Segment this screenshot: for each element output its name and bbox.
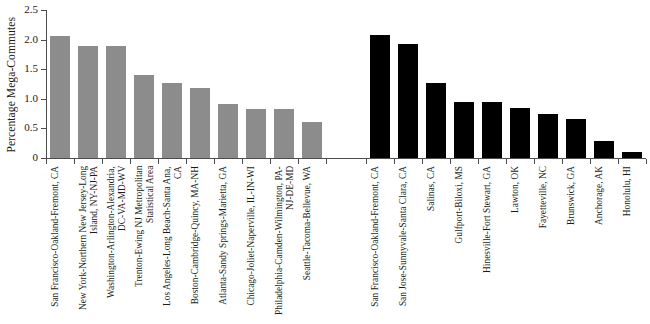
- bar: [50, 36, 70, 158]
- x-axis-label: San Francisco-Oakland-Fremont, CA: [50, 166, 70, 316]
- x-axis-label-text: Philadelphia-Camden-Wilmington, PA-NJ-DE…: [274, 166, 295, 316]
- bar: [426, 83, 446, 158]
- y-tick-label-text: 1.5: [8, 63, 38, 74]
- bar: [482, 102, 502, 158]
- x-axis-label-text: San Francisco-Oakland-Fremont, CA: [50, 166, 61, 307]
- bar: [134, 75, 154, 158]
- x-axis-label: Seattle-Tacoma-Bellevue, WA: [302, 166, 322, 316]
- x-axis-label-text: Lawton, OK: [510, 166, 521, 213]
- x-axis-label-text: Gulfport-Biloxi, MS: [454, 166, 465, 243]
- bar: [78, 46, 98, 158]
- x-tick-mark: [270, 159, 271, 164]
- bar: [190, 88, 210, 158]
- x-tick-mark: [394, 159, 395, 164]
- x-tick-mark: [242, 159, 243, 164]
- x-axis-label: Gulfport-Biloxi, MS: [454, 166, 474, 316]
- x-tick-mark: [158, 159, 159, 164]
- x-tick-mark: [590, 159, 591, 164]
- x-tick-mark: [46, 159, 47, 164]
- x-axis-label-text: San Francisco-Oakland-Fremont, CA: [370, 166, 381, 307]
- x-axis-label: Washington-Arlington-Alexandria, DC-VA-M…: [106, 166, 126, 316]
- x-axis-label-text: Brunswick, GA: [566, 166, 577, 225]
- x-tick-mark: [422, 159, 423, 164]
- y-tick-label-text: 2.0: [8, 34, 38, 45]
- x-axis-label: Philadelphia-Camden-Wilmington, PA-NJ-DE…: [274, 166, 294, 316]
- x-axis-label-text: Los Angeles-Long Beach-Santa Ana, CA: [162, 166, 183, 316]
- x-tick-mark: [478, 159, 479, 164]
- x-axis-label-text: Fayetteville, NC: [538, 166, 549, 228]
- x-tick-mark: [186, 159, 187, 164]
- x-tick-mark: [102, 159, 103, 164]
- x-tick-mark: [450, 159, 451, 164]
- x-axis-label-text: Washington-Arlington-Alexandria, DC-VA-M…: [106, 166, 127, 316]
- bar: [398, 44, 418, 158]
- x-axis-label: Salinas, CA: [426, 166, 446, 316]
- bar: [510, 108, 530, 158]
- x-tick-mark: [298, 159, 299, 164]
- x-axis-label: San Francisco-Oakland-Fremont, CA: [370, 166, 390, 316]
- bar: [566, 119, 586, 158]
- x-axis-label: New York-Northern New Jersey-Long Island…: [78, 166, 98, 316]
- y-tick-label-text: 1.0: [8, 93, 38, 104]
- bar: [106, 46, 126, 158]
- bar: [218, 104, 238, 158]
- bar: [162, 83, 182, 158]
- x-axis-label-text: Honolulu, HI: [622, 166, 633, 216]
- x-axis-label: Trenton-Ewing NJ Metropolitan Statistica…: [134, 166, 154, 316]
- y-tick-label-text: 0.5: [8, 122, 38, 133]
- y-tick-label-text: 0: [8, 152, 38, 163]
- x-axis-label-text: New York-Northern New Jersey-Long Island…: [78, 166, 99, 316]
- x-axis-label-text: Salinas, CA: [426, 166, 437, 211]
- x-axis-label-text: San Jose-Sunnyvale-Santa Clara, CA: [398, 166, 409, 306]
- bar: [302, 122, 322, 158]
- x-tick-mark: [130, 159, 131, 164]
- x-tick-mark: [506, 159, 507, 164]
- y-tick-label-text: 2.5: [8, 4, 38, 15]
- x-axis-label-text: Seattle-Tacoma-Bellevue, WA: [302, 166, 313, 280]
- x-tick-mark: [74, 159, 75, 164]
- x-tick-mark: [618, 159, 619, 164]
- bars-layer: [46, 10, 646, 158]
- x-axis-label-text: Hinesville-Fort Stewart, GA: [482, 166, 493, 273]
- x-axis-label-text: Atlanta-Sandy Springs-Marietta, GA: [218, 166, 229, 305]
- bar: [246, 109, 266, 158]
- x-axis-label: Brunswick, GA: [566, 166, 586, 316]
- x-axis-label-text: Chicago-Joliet-Naperville, IL-IN-WI: [246, 166, 257, 306]
- bar: [370, 35, 390, 158]
- x-axis-label: Anchorage, AK: [594, 166, 614, 316]
- x-axis-label: Boston-Cambridge-Quincy, MA-NH: [190, 166, 210, 316]
- bar: [454, 102, 474, 158]
- x-axis-label-text: Trenton-Ewing NJ Metropolitan Statistica…: [134, 166, 155, 316]
- x-axis-label: Honolulu, HI: [622, 166, 642, 316]
- y-axis-title: Percentage Mega-Commutes: [0, 0, 22, 170]
- plot-area: 00.51.01.52.02.5: [46, 10, 646, 158]
- x-tick-mark: [366, 159, 367, 164]
- x-axis-labels: San Francisco-Oakland-Fremont, CANew Yor…: [46, 166, 646, 322]
- x-tick-mark: [214, 159, 215, 164]
- x-axis-label: Chicago-Joliet-Naperville, IL-IN-WI: [246, 166, 266, 316]
- x-tick-mark: [562, 159, 563, 164]
- bar: [622, 152, 642, 158]
- x-tick-mark: [326, 159, 327, 164]
- x-axis-label: Los Angeles-Long Beach-Santa Ana, CA: [162, 166, 182, 316]
- x-axis-label: Fayetteville, NC: [538, 166, 558, 316]
- x-tick-mark: [534, 159, 535, 164]
- x-axis-label: Atlanta-Sandy Springs-Marietta, GA: [218, 166, 238, 316]
- bar: [538, 114, 558, 158]
- x-tick-mark: [646, 159, 647, 164]
- x-axis-label: Hinesville-Fort Stewart, GA: [482, 166, 502, 316]
- bar: [274, 109, 294, 158]
- x-axis-label: San Jose-Sunnyvale-Santa Clara, CA: [398, 166, 418, 316]
- x-axis-label-text: Boston-Cambridge-Quincy, MA-NH: [190, 166, 201, 304]
- x-axis-label: Lawton, OK: [510, 166, 530, 316]
- bar-chart-figure: Percentage Mega-Commutes 00.51.01.52.02.…: [0, 0, 650, 324]
- bar: [594, 141, 614, 158]
- x-axis-line: [46, 158, 646, 159]
- x-axis-label-text: Anchorage, AK: [594, 166, 605, 225]
